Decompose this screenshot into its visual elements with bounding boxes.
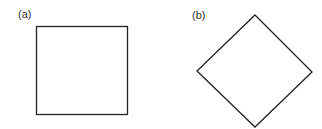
- diamond-shape: [197, 15, 312, 127]
- square-shape: [37, 27, 128, 115]
- figure-canvas: [0, 0, 322, 129]
